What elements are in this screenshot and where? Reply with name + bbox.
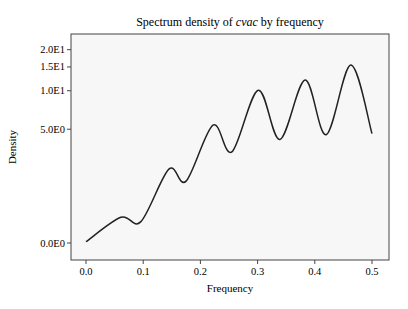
plot-area: [71, 34, 389, 260]
y-axis-label: Density: [6, 129, 18, 164]
x-axis-label: Frequency: [207, 282, 254, 294]
y-tick-label: 2.0E1: [40, 44, 65, 55]
x-tick-label: 0.1: [137, 266, 150, 277]
chart-title: Spectrum density of cvac by frequency: [136, 15, 324, 29]
y-tick-label: 5.0E0: [40, 124, 65, 135]
y-tick-label: 0.0E0: [40, 238, 65, 249]
x-tick-label: 0.4: [308, 266, 322, 277]
y-axis-ticks: 0.0E05.0E01.0E11.5E12.0E1: [40, 44, 71, 248]
y-tick-label: 1.5E1: [40, 61, 65, 72]
y-tick-label: 1.0E1: [40, 85, 65, 96]
spectrum-density-chart: Spectrum density of cvac by frequency 0.…: [0, 0, 408, 309]
x-tick-label: 0.5: [365, 266, 378, 277]
x-tick-label: 0.0: [79, 266, 92, 277]
x-tick-label: 0.2: [194, 266, 207, 277]
x-tick-label: 0.3: [251, 266, 264, 277]
x-axis-ticks: 0.00.10.20.30.40.5: [79, 260, 378, 277]
